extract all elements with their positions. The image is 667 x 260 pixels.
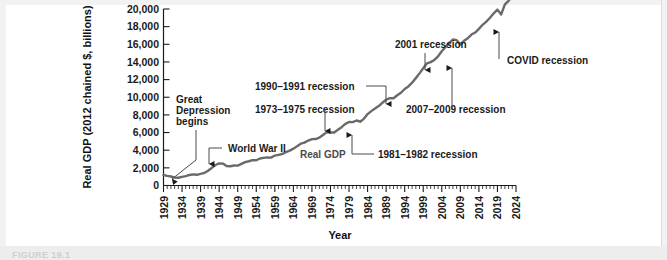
x-tick-label: 1949 — [232, 196, 244, 220]
y-tick-label: 16,000 — [127, 38, 159, 50]
annotation-world-war-ii-leader — [209, 148, 222, 164]
annotation-recession-1990-1991-label: 1990–1991 recession — [255, 81, 355, 92]
x-tick-label: 1999 — [417, 196, 429, 220]
annotation-recession-2007-2009: 2007–2009 recession — [406, 68, 506, 115]
x-tick-label: 1989 — [380, 196, 392, 220]
annotation-recession-1973-1975: 1973–1975 recession — [255, 104, 355, 131]
annotation-great-depression-label-line3: begins — [176, 116, 209, 127]
y-tick-label: 0 — [153, 179, 159, 191]
annotation-recession-1981-1982: 1981–1982 recession — [352, 135, 478, 160]
x-axis-title: Year — [328, 229, 352, 241]
annotation-great-depression: Great Depression begins — [172, 94, 230, 179]
annotation-covid-recession-label: COVID recession — [507, 55, 588, 66]
x-tick-label: 2024 — [510, 196, 522, 220]
annotation-recession-1981-1982-label: 1981–1982 recession — [378, 149, 478, 160]
x-tick-label: 1979 — [343, 196, 355, 220]
x-tick-label: 1929 — [158, 196, 170, 220]
series-label-real-gdp: Real GDP — [300, 149, 346, 160]
y-axis-title: Real GDP (2012 chained $, billions) — [81, 5, 93, 189]
y-axis-tick-labels: 02,0004,0006,0008,00010,00012,00014,0001… — [127, 3, 159, 192]
y-tick-label: 12,000 — [127, 73, 159, 85]
y-tick-label: 20,000 — [127, 3, 159, 15]
y-tick-label: 14,000 — [127, 56, 159, 68]
x-tick-label: 2014 — [473, 196, 485, 220]
annotation-great-depression-label-line2: Depression — [176, 105, 230, 116]
x-tick-label: 1994 — [399, 196, 411, 220]
y-axis-tick-marks — [164, 9, 170, 186]
y-tick-label: 2,000 — [133, 162, 159, 174]
annotation-covid-recession: COVID recession — [499, 32, 588, 66]
y-tick-label: 4,000 — [133, 144, 159, 156]
annotation-recession-1981-1982-leader — [352, 135, 374, 154]
annotation-recession-1990-1991: 1990–1991 recession — [255, 81, 386, 104]
y-tick-label: 6,000 — [133, 126, 159, 138]
annotation-recession-1973-1975-label: 1973–1975 recession — [255, 104, 355, 115]
x-tick-label: 2009 — [454, 196, 466, 220]
annotation-recession-2001: 2001 recession — [395, 39, 467, 70]
annotation-world-war-ii-label: World War II — [228, 143, 286, 154]
y-tick-label: 18,000 — [127, 20, 159, 32]
y-tick-label: 8,000 — [133, 109, 159, 121]
x-tick-label: 1944 — [213, 196, 225, 220]
x-tick-label: 1939 — [195, 196, 207, 220]
x-tick-label: 1964 — [287, 196, 299, 220]
y-tick-label: 10,000 — [127, 91, 159, 103]
x-tick-label: 1974 — [324, 196, 336, 220]
x-tick-label: 1959 — [269, 196, 281, 220]
annotation-great-depression-leader — [172, 130, 196, 179]
figure-root: Real GDP (2012 chained $, billions) 02,0… — [0, 0, 667, 260]
x-axis-tick-marks — [164, 186, 517, 193]
x-tick-label: 1954 — [250, 196, 262, 220]
x-tick-label: 2004 — [436, 196, 448, 220]
x-axis-tick-labels: 1929193419391944194919541959196419691974… — [158, 196, 523, 220]
x-tick-label: 1984 — [362, 196, 374, 220]
x-tick-label: 1969 — [306, 196, 318, 220]
annotation-great-depression-label-line1: Great — [176, 94, 203, 105]
annotation-recession-2007-2009-label: 2007–2009 recession — [406, 104, 506, 115]
figure-caption: FIGURE 19.1 — [12, 250, 70, 260]
x-tick-label: 2019 — [491, 196, 503, 220]
real-gdp-line-chart: Real GDP (2012 chained $, billions) 02,0… — [0, 0, 667, 260]
annotation-recession-2001-label: 2001 recession — [395, 39, 467, 50]
x-tick-label: 1934 — [176, 196, 188, 220]
